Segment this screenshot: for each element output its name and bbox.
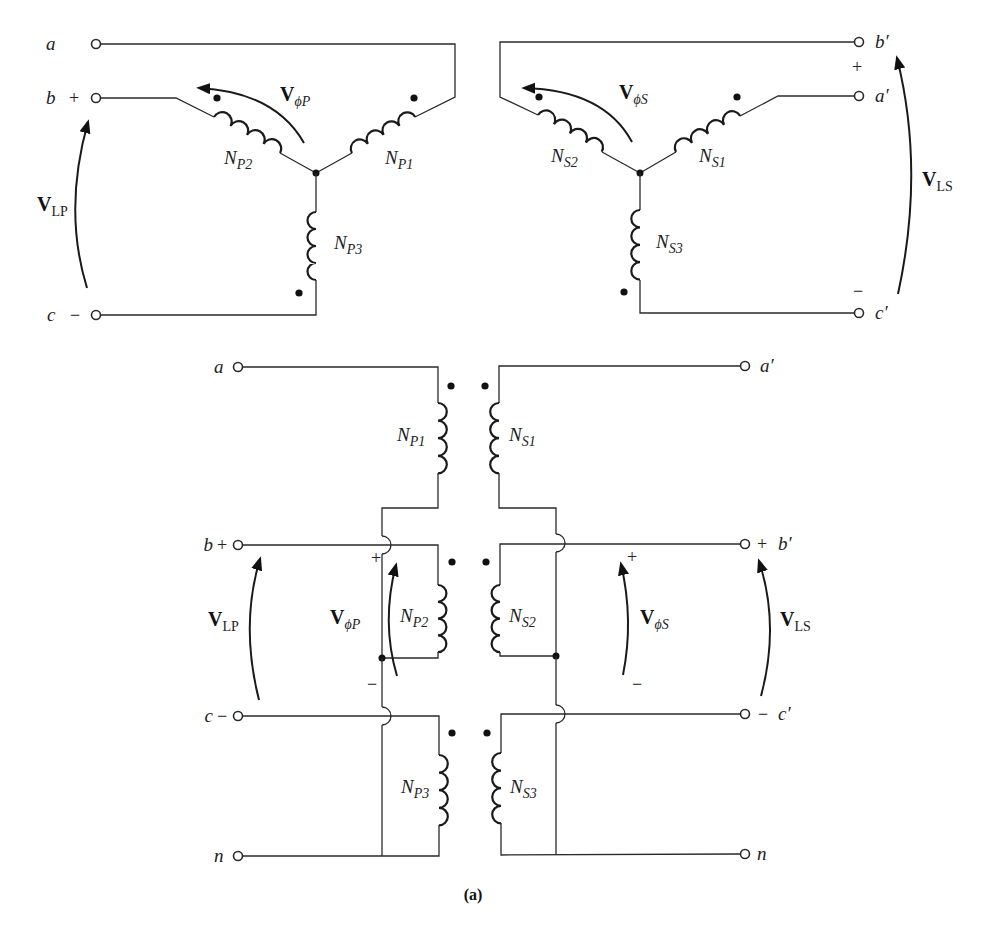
label-bottom-np3: NP3	[400, 776, 429, 801]
label-np2: NP2	[223, 147, 252, 172]
label-bottom-c-prime: c′	[778, 703, 791, 724]
polarity-dot-np1	[410, 94, 417, 101]
coil-np3-icon	[308, 212, 317, 280]
wire-np2-center	[280, 153, 316, 173]
polarity-dot-bottom-np1	[447, 382, 454, 389]
figure-caption: (a)	[464, 886, 483, 904]
label-b: b	[46, 87, 56, 108]
terminal-bottom-b[interactable]	[234, 541, 243, 550]
label-bottom-ns3: NS3	[509, 776, 537, 801]
polarity-dot-bottom-ns3	[483, 729, 490, 736]
bottom-schematic: a b + c − n a′ + b′ − c′ n + − VϕP VLP +…	[204, 355, 811, 866]
coil-bottom-np1-icon	[438, 403, 447, 473]
wire-c	[101, 280, 316, 315]
wire-bottom-a	[243, 367, 438, 403]
coil-bottom-ns2-icon	[492, 585, 500, 652]
label-np3: NP3	[333, 232, 362, 257]
sign-vphp-plus: +	[371, 548, 381, 568]
label-np1: NP1	[384, 147, 413, 172]
label-bottom-a: a	[214, 356, 224, 377]
label-bottom-n: n	[214, 845, 224, 866]
coil-ns3-icon	[631, 210, 640, 280]
label-bottom-c: c	[205, 705, 214, 726]
label-ns3: NS3	[655, 231, 683, 256]
arrow-bottom-v-phase-s-icon	[621, 564, 628, 675]
sign-bottom-c-prime-minus: −	[758, 704, 768, 724]
arrow-v-line-s-icon	[897, 58, 911, 294]
wire-bottom-c	[243, 716, 439, 755]
terminal-bottom-n[interactable]	[234, 852, 243, 861]
terminal-bottom-c-prime[interactable]	[741, 710, 750, 719]
coil-np1-icon	[347, 109, 415, 153]
label-bottom-n-prime: n	[757, 843, 767, 864]
wire-c-prime	[640, 280, 854, 313]
terminal-a[interactable]	[92, 40, 101, 49]
terminal-a-prime[interactable]	[855, 92, 864, 101]
wire-center-ns1	[640, 152, 676, 173]
wire-ns2-center	[602, 152, 640, 173]
label-v-line-p: VLP	[37, 193, 68, 219]
label-bottom-a-prime: a′	[760, 355, 775, 376]
wire-np1-to-node	[382, 473, 438, 536]
terminal-b[interactable]	[92, 94, 101, 103]
terminal-bottom-a[interactable]	[234, 363, 243, 372]
transformer-wye-wye-diagram: a b + c − VϕP VLP NP2 NP1 NP3	[0, 0, 982, 929]
label-bottom-np2: NP2	[399, 605, 428, 630]
label-a-prime: a′	[875, 85, 890, 106]
terminal-c-prime[interactable]	[855, 309, 864, 318]
label-b-prime: b′	[875, 31, 890, 52]
sign-bottom-c-minus: −	[217, 706, 227, 726]
arrow-bottom-v-line-s-icon	[759, 561, 770, 696]
label-bottom-v-line-s: VLS	[780, 608, 811, 634]
terminal-bottom-n-prime[interactable]	[741, 850, 750, 859]
sign-vphs-plus: +	[627, 547, 637, 567]
polarity-dot-bottom-np2	[448, 558, 455, 565]
wire-np3-to-n	[243, 825, 439, 856]
coil-bottom-np3-icon	[439, 755, 448, 825]
label-ns1: NS1	[698, 145, 726, 170]
sign-plus-b: +	[69, 88, 79, 108]
label-v-phase-s: VϕS	[619, 81, 648, 107]
polarity-dot-np2	[213, 94, 220, 101]
label-v-line-s: VLS	[922, 168, 953, 194]
terminal-b-prime[interactable]	[855, 38, 864, 47]
wire-ns1-to-node	[499, 473, 556, 534]
wire-b-prime	[500, 42, 854, 115]
terminal-c[interactable]	[92, 311, 101, 320]
arrow-bottom-v-line-p-icon	[250, 559, 260, 700]
wire-center-np1	[316, 153, 352, 173]
terminal-bottom-b-prime[interactable]	[741, 540, 750, 549]
terminal-bottom-a-prime[interactable]	[741, 362, 750, 371]
arrow-v-line-p-icon	[75, 122, 88, 288]
wire-b	[101, 98, 214, 117]
polarity-dot-np3	[295, 289, 302, 296]
polarity-dot-ns2	[535, 93, 542, 100]
polarity-dot-ns1	[733, 93, 740, 100]
label-bottom-b-prime: b′	[778, 533, 793, 554]
sign-vphp-minus: −	[367, 674, 377, 694]
crossover-b-secondary-icon	[556, 534, 565, 552]
label-bottom-b: b	[204, 534, 214, 555]
polarity-dot-bottom-ns2	[482, 558, 489, 565]
label-a: a	[46, 33, 56, 54]
coil-bottom-ns1-icon	[490, 403, 499, 473]
label-bottom-ns1: NS1	[508, 424, 536, 449]
polarity-dot-bottom-ns1	[481, 382, 488, 389]
wire-ns3-to-n	[501, 823, 740, 855]
polarity-dot-ns3	[620, 288, 627, 295]
polarity-dot-bottom-np3	[448, 729, 455, 736]
label-v-phase-p: VϕP	[280, 83, 311, 109]
arrow-bottom-v-phase-p-icon	[389, 565, 397, 676]
sign-plus-secondary: +	[852, 57, 862, 77]
sign-minus-secondary: −	[853, 281, 863, 301]
secondary-wye-connection: b′ a′ c′ + − VϕS VLS NS2 NS1 NS3	[500, 31, 953, 323]
label-ns2: NS2	[550, 145, 578, 170]
wire-np2-to-node	[382, 652, 438, 658]
terminal-bottom-c[interactable]	[234, 712, 243, 721]
sign-vphs-minus: −	[632, 674, 642, 694]
label-bottom-v-phase-p: VϕP	[330, 606, 361, 632]
primary-wye-connection: a b + c − VϕP VLP NP2 NP1 NP3	[37, 33, 455, 325]
coil-bottom-np2-icon	[438, 585, 446, 652]
wire-a-prime	[740, 96, 854, 116]
wire-a	[101, 44, 455, 117]
